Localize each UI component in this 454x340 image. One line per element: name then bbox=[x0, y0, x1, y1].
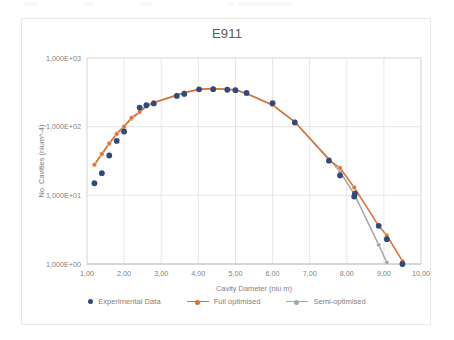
legend-label: Full optimised bbox=[214, 297, 261, 306]
legend-line-marker-icon bbox=[286, 299, 308, 304]
data-point-experimental bbox=[114, 138, 120, 144]
legend-label: Semi-optimised bbox=[313, 297, 365, 306]
data-point-experimental bbox=[181, 91, 187, 97]
data-point bbox=[352, 185, 356, 189]
x-axis-tick-label: 6,00 bbox=[266, 269, 280, 278]
y-axis-tick-label: 1,000E+02 bbox=[46, 122, 81, 131]
data-point-experimental bbox=[384, 236, 390, 242]
data-point-experimental bbox=[151, 101, 157, 107]
x-axis-tick-label: 8,00 bbox=[340, 269, 354, 278]
data-point-experimental bbox=[244, 90, 250, 96]
data-point-experimental bbox=[121, 129, 127, 135]
legend-label: Experimental Data bbox=[98, 297, 160, 306]
data-point-experimental bbox=[137, 105, 143, 111]
x-axis-tick-label: 4,00 bbox=[191, 269, 205, 278]
legend-line-marker-icon bbox=[187, 299, 209, 304]
data-point-experimental bbox=[106, 153, 112, 159]
data-point-experimental bbox=[337, 173, 343, 179]
data-point-experimental bbox=[292, 120, 298, 126]
x-axis-tick-label: 5,00 bbox=[228, 269, 242, 278]
data-point-experimental bbox=[143, 102, 149, 108]
data-point bbox=[338, 166, 342, 170]
data-point-experimental bbox=[174, 93, 180, 99]
legend-item-semi-optimised[interactable]: Semi-optimised bbox=[286, 297, 365, 306]
data-point bbox=[114, 132, 118, 136]
x-axis-tick-label: 7,00 bbox=[303, 269, 317, 278]
legend-item-experimental-data[interactable]: Experimental Data bbox=[88, 297, 160, 306]
data-point bbox=[92, 162, 96, 166]
data-point-experimental bbox=[400, 261, 406, 267]
data-point bbox=[122, 124, 126, 128]
y-axis-tick-label: 1,000E+03 bbox=[46, 54, 81, 63]
data-point bbox=[107, 141, 111, 145]
x-axis-tick-label: 10,00 bbox=[412, 269, 430, 278]
data-point-experimental bbox=[196, 86, 202, 92]
y-axis-tick-label: 1,000E+01 bbox=[46, 191, 81, 200]
data-point bbox=[376, 243, 380, 247]
data-point-experimental bbox=[326, 158, 332, 164]
data-point-experimental bbox=[270, 100, 276, 106]
x-axis-tick-label: 3,00 bbox=[154, 269, 168, 278]
x-axis-tick-label: 9,00 bbox=[377, 269, 391, 278]
data-point bbox=[100, 152, 104, 156]
chart-card: E911 1,000E+001,000E+011,000E+021,000E+0… bbox=[21, 18, 431, 325]
data-point-experimental bbox=[92, 180, 98, 186]
chart-svg: 1,000E+001,000E+011,000E+021,000E+031,00… bbox=[22, 19, 432, 326]
x-axis-tick-label: 2,00 bbox=[117, 269, 131, 278]
data-point-experimental bbox=[352, 191, 358, 197]
x-axis-tick-label: 1,00 bbox=[80, 269, 94, 278]
data-point-experimental bbox=[210, 86, 216, 92]
data-point-experimental bbox=[376, 223, 382, 229]
legend-marker-icon bbox=[88, 299, 93, 304]
legend-item-full-optimised[interactable]: Full optimised bbox=[187, 297, 261, 306]
data-point bbox=[129, 116, 133, 120]
y-axis-tick-label: 1,000E+00 bbox=[46, 260, 81, 269]
plot-area: 1,000E+001,000E+011,000E+021,000E+031,00… bbox=[22, 19, 432, 326]
y-axis-title: No. Cavities (nium^-4) bbox=[37, 125, 46, 198]
data-point-experimental bbox=[99, 170, 105, 176]
chart-legend: Experimental Data Full optimised Semi-op… bbox=[22, 297, 432, 306]
x-axis-title: Cavity Dameter (niu m) bbox=[216, 284, 292, 293]
data-point bbox=[385, 260, 389, 264]
data-point-experimental bbox=[224, 87, 230, 93]
data-point-experimental bbox=[233, 87, 239, 93]
